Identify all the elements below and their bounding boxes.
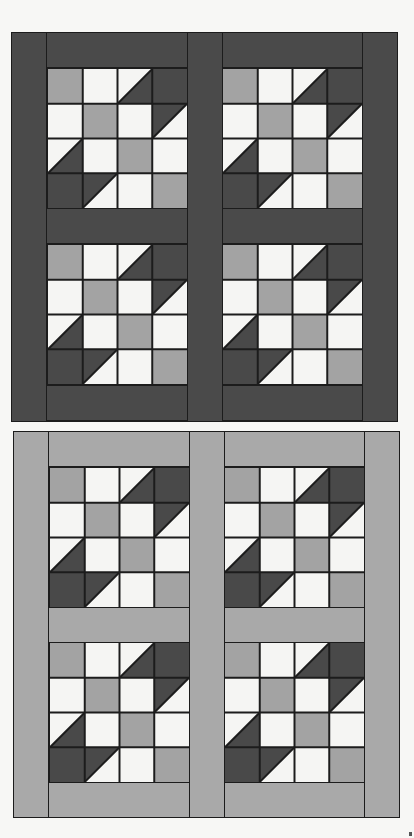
border-right (364, 431, 400, 818)
sash-band (46, 208, 188, 244)
quilt-block (47, 68, 188, 209)
sash-center (189, 431, 225, 818)
sash-band (222, 32, 363, 68)
border-right (362, 32, 398, 422)
sash-band (222, 385, 363, 421)
sash-band (224, 431, 365, 467)
sash-band (48, 782, 190, 818)
quilt-block (224, 642, 365, 783)
quilt-block (222, 244, 363, 385)
sash-band (48, 431, 190, 467)
sash-center (187, 32, 223, 422)
sash-band (46, 385, 188, 421)
border-left (13, 431, 49, 818)
corner-mark (409, 832, 412, 836)
quilt-block (49, 642, 190, 783)
sash-band (224, 782, 365, 818)
quilt-block (49, 467, 190, 608)
quilt-block (222, 68, 363, 209)
border-left (11, 32, 47, 422)
sash-band (48, 607, 190, 643)
quilt-block (224, 467, 365, 608)
sash-band (46, 32, 188, 68)
quilt-block (47, 244, 188, 385)
sash-band (222, 208, 363, 244)
sash-band (224, 607, 365, 643)
